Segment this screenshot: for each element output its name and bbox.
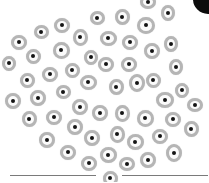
cell [140, 0, 156, 9]
nucleus [174, 65, 178, 69]
cell [109, 79, 124, 95]
cell [39, 132, 55, 148]
nucleus [66, 150, 70, 154]
cell [164, 36, 178, 52]
cell [137, 17, 155, 34]
nucleus [61, 90, 65, 94]
cell [54, 18, 70, 33]
nucleus [171, 117, 175, 121]
cell [184, 121, 199, 137]
cell [169, 59, 183, 75]
cell [84, 50, 98, 65]
nucleus [17, 40, 21, 44]
cell [121, 57, 137, 72]
cell [20, 73, 35, 88]
nucleus [36, 96, 40, 100]
nucleus [120, 111, 124, 115]
cell-micrograph [0, 0, 209, 182]
dark-blob-corner [193, 0, 209, 14]
nucleus [7, 61, 11, 65]
cell [67, 119, 83, 135]
baseline-segment [122, 175, 208, 176]
nucleus [133, 140, 137, 144]
nucleus [106, 36, 110, 40]
nucleus [189, 127, 193, 131]
cell [156, 92, 174, 108]
nucleus [87, 161, 91, 165]
nucleus [144, 23, 148, 27]
nucleus [25, 78, 29, 82]
cell [122, 35, 138, 50]
nucleus [86, 80, 90, 84]
cell [56, 85, 71, 99]
cell [152, 129, 168, 144]
nucleus [89, 55, 93, 59]
cell [73, 29, 88, 46]
cell [100, 31, 117, 46]
cell [2, 56, 16, 71]
nucleus [158, 134, 162, 138]
nucleus [172, 151, 176, 155]
nucleus [127, 62, 131, 66]
cell [103, 171, 118, 183]
cell [161, 5, 175, 21]
cell [98, 57, 114, 72]
nucleus [146, 0, 150, 4]
cell [127, 134, 144, 150]
cell [165, 112, 181, 127]
cell [65, 63, 80, 78]
cell [119, 157, 135, 171]
nucleus [78, 35, 82, 39]
cell [100, 147, 117, 163]
nucleus [95, 16, 99, 20]
cell [42, 67, 58, 82]
nucleus [193, 103, 197, 107]
nucleus [78, 105, 82, 109]
nucleus [11, 99, 15, 103]
cell [34, 25, 49, 39]
nucleus [48, 72, 52, 76]
cell [166, 144, 182, 162]
nucleus [39, 30, 43, 34]
cell [22, 111, 37, 127]
nucleus [104, 62, 108, 66]
cell [92, 105, 108, 121]
nucleus [166, 11, 170, 15]
nucleus [125, 162, 129, 166]
nucleus [120, 15, 124, 19]
cell [144, 43, 160, 59]
nucleus [151, 78, 155, 82]
cell [26, 49, 41, 64]
nucleus [106, 153, 110, 157]
nucleus [98, 111, 102, 115]
nucleus [45, 138, 49, 142]
nucleus [114, 85, 118, 89]
cell [110, 126, 125, 143]
nucleus [146, 158, 150, 162]
cell [30, 90, 46, 106]
cell [81, 156, 97, 171]
nucleus [163, 98, 167, 102]
baseline-segment [10, 175, 96, 176]
cell [140, 152, 156, 168]
cell [46, 110, 62, 125]
nucleus [73, 125, 77, 129]
nucleus [108, 176, 112, 180]
nucleus [31, 54, 35, 58]
cell [90, 11, 105, 25]
cell [80, 75, 97, 90]
cell [11, 35, 27, 50]
nucleus [150, 49, 154, 53]
cell [84, 130, 100, 146]
nucleus [128, 40, 132, 44]
nucleus [70, 68, 74, 72]
cell [129, 74, 145, 92]
cell [5, 93, 21, 109]
cell [137, 110, 154, 127]
nucleus [27, 117, 31, 121]
cell [60, 145, 76, 160]
cell [146, 73, 161, 88]
nucleus [143, 116, 147, 120]
cell [72, 99, 88, 115]
cell [175, 83, 189, 98]
